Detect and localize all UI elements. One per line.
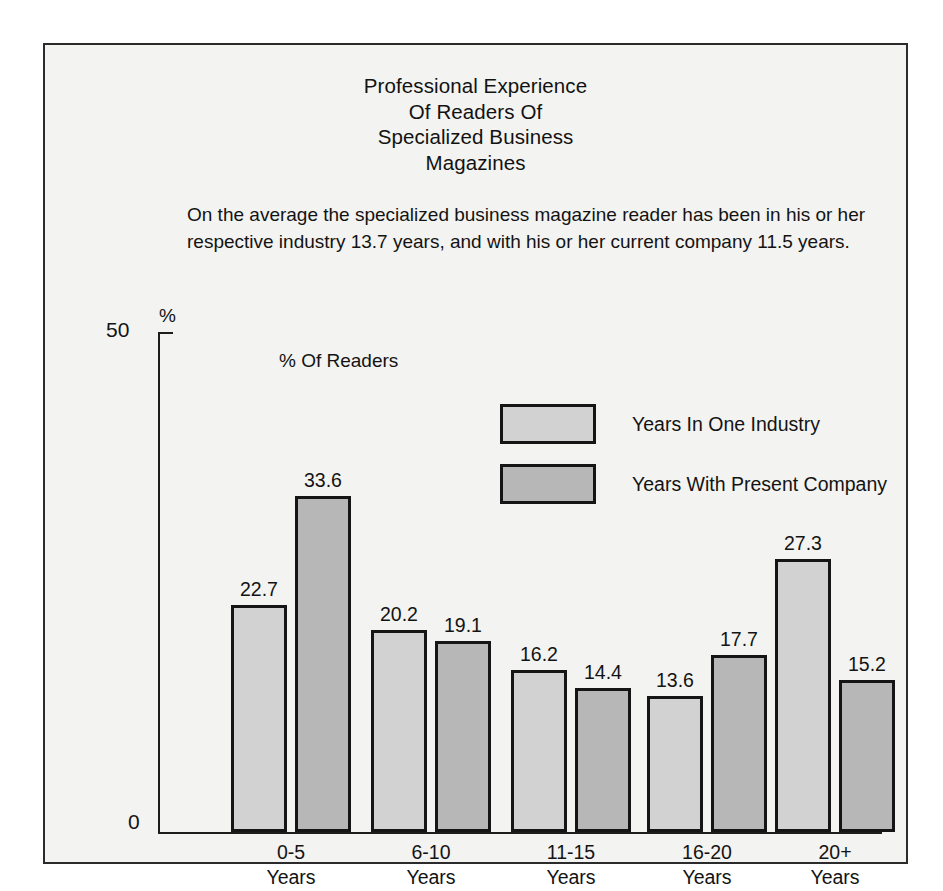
bar xyxy=(839,680,895,832)
plot-area: 22.733.620.219.116.214.413.617.727.315.2 xyxy=(158,332,882,832)
chart-title-line-4: Magazines xyxy=(45,150,906,176)
bar xyxy=(231,605,287,832)
chart-title-line-1: Professional Experience xyxy=(45,73,906,99)
x-tick-unit: Years xyxy=(760,865,910,890)
x-tick-range: 6-10 xyxy=(356,840,506,865)
chart-title-line-3: Specialized Business xyxy=(45,124,906,150)
x-tick-range: 0-5 xyxy=(216,840,366,865)
bar-group: 27.315.2 xyxy=(775,332,895,832)
chart-title-line-2: Of Readers Of xyxy=(45,99,906,125)
bar-value-label: 14.4 xyxy=(563,661,643,684)
bar-value-label: 17.7 xyxy=(699,628,779,651)
bar-value-label: 27.3 xyxy=(763,532,843,555)
bar xyxy=(295,496,351,832)
chart-title: Professional Experience Of Readers Of Sp… xyxy=(45,73,906,175)
bar-value-label: 33.6 xyxy=(283,469,363,492)
x-axis-tick-label: 11-15Years xyxy=(496,840,646,890)
chart-subtitle: On the average the specialized business … xyxy=(187,202,887,255)
bar-value-label: 15.2 xyxy=(827,653,907,676)
chart-page: Professional Experience Of Readers Of Sp… xyxy=(0,0,943,891)
bar xyxy=(371,630,427,832)
bar-value-label: 22.7 xyxy=(219,578,299,601)
x-tick-unit: Years xyxy=(216,865,366,890)
y-axis-tick-label-min: 0 xyxy=(128,810,140,834)
bar-group: 20.219.1 xyxy=(371,332,491,832)
x-tick-unit: Years xyxy=(356,865,506,890)
x-axis-tick-label: 6-10Years xyxy=(356,840,506,890)
bar xyxy=(647,696,703,832)
y-axis-unit-label: % xyxy=(159,305,176,327)
x-tick-range: 11-15 xyxy=(496,840,646,865)
x-axis-tick-label: 20+Years xyxy=(760,840,910,890)
x-axis-line xyxy=(158,832,882,834)
bar-group: 22.733.6 xyxy=(231,332,351,832)
x-tick-range: 20+ xyxy=(760,840,910,865)
bar xyxy=(711,655,767,832)
bar xyxy=(511,670,567,832)
bar xyxy=(435,641,491,832)
chart-frame: Professional Experience Of Readers Of Sp… xyxy=(43,43,908,864)
bar-group: 16.214.4 xyxy=(511,332,631,832)
bar xyxy=(775,559,831,832)
x-tick-unit: Years xyxy=(496,865,646,890)
bar xyxy=(575,688,631,832)
bar-value-label: 19.1 xyxy=(423,614,503,637)
x-axis-tick-label: 0-5Years xyxy=(216,840,366,890)
y-axis-tick-label-max: 50 xyxy=(106,318,129,342)
bar-group: 13.617.7 xyxy=(647,332,767,832)
bar-value-label: 13.6 xyxy=(635,669,715,692)
